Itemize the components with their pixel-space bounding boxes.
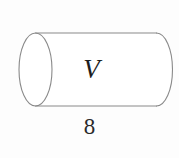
length-label: 8: [0, 115, 179, 138]
volume-label-text: V: [83, 56, 100, 83]
cylinder-figure: V 8: [0, 0, 179, 158]
volume-label: V: [0, 56, 179, 83]
length-label-text: 8: [84, 115, 96, 138]
